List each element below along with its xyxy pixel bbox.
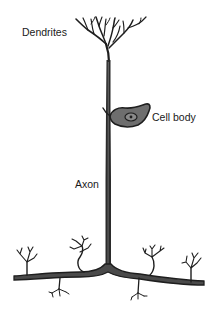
cell-body-label: Cell body [152,112,196,123]
neuron-illustration [0,0,221,322]
axon-label: Axon [75,179,99,190]
dendrites [76,17,146,62]
dendrites-label: Dendrites [22,27,67,38]
axon-shaft [106,60,112,268]
axon-terminals [14,264,204,285]
